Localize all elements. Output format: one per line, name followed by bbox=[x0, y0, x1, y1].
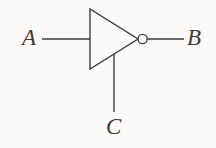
negation-bubble-icon bbox=[138, 34, 147, 43]
logic-gate-diagram: A B C bbox=[0, 0, 216, 148]
signal-label-a: A bbox=[22, 26, 36, 49]
signal-label-b: B bbox=[187, 26, 201, 49]
signal-label-c: C bbox=[106, 115, 121, 138]
